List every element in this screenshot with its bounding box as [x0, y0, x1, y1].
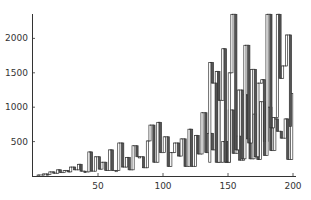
candle-increasing [231, 14, 233, 72]
candle-increasing [118, 143, 120, 171]
candle-increasing [276, 14, 278, 117]
candle-decreasing [80, 164, 82, 171]
candle-increasing [180, 139, 182, 156]
candle-decreasing [197, 135, 199, 154]
candle-increasing [174, 143, 176, 153]
candle-decreasing [136, 146, 138, 157]
x-tick-label: 150 [219, 181, 236, 191]
candle-increasing [284, 119, 286, 138]
candle-increasing [218, 100, 220, 162]
candle-decreasing [254, 69, 256, 156]
candle-decreasing [111, 150, 113, 171]
candle-increasing [222, 49, 224, 101]
y-tick-label: 1500 [5, 68, 28, 78]
candle-decreasing [224, 49, 226, 163]
candle-increasing [237, 90, 239, 150]
candle-decreasing [279, 14, 281, 78]
candle-increasing [157, 122, 159, 162]
candle-increasing [146, 141, 148, 168]
candle-increasing [101, 162, 103, 169]
candle-decreasing [211, 62, 213, 83]
candle-decreasing [184, 139, 186, 167]
candle-increasing [209, 62, 211, 162]
candle-decreasing [142, 157, 144, 168]
candle-increasing [132, 146, 134, 170]
y-tick-label: 2000 [5, 33, 28, 43]
candle-increasing [250, 69, 252, 143]
candle-decreasing [159, 122, 161, 152]
candle-increasing [222, 142, 224, 163]
candle-increasing [244, 45, 246, 159]
candle-decreasing [211, 133, 213, 150]
candle-increasing [272, 118, 274, 128]
candlestick-chart: 500100015002000 50100150200 [0, 0, 311, 200]
candle-decreasing [122, 143, 124, 167]
candle-decreasing [276, 119, 278, 131]
candle-increasing [188, 129, 190, 166]
candle-increasing [77, 164, 79, 170]
candle-increasing [282, 66, 284, 78]
candle-increasing [194, 135, 196, 166]
candle-increasing [126, 157, 128, 167]
candle-increasing [257, 83, 259, 157]
candle-decreasing [280, 131, 282, 138]
candle-increasing [163, 137, 165, 153]
candle-decreasing [90, 152, 92, 171]
candle-increasing [285, 35, 287, 66]
candle-increasing [170, 153, 172, 167]
candle-decreasing [289, 35, 291, 127]
candle-increasing [49, 172, 51, 175]
x-ticks-group: 50100150200 [92, 173, 302, 191]
candle-increasing [70, 167, 72, 172]
candle-increasing [94, 157, 96, 171]
x-tick-label: 100 [154, 181, 171, 191]
candle-increasing [109, 150, 111, 171]
candle-decreasing [235, 14, 237, 150]
candle-decreasing [205, 113, 207, 153]
candle-decreasing [98, 157, 100, 169]
candle-decreasing [59, 170, 61, 173]
x-tick-label: 200 [284, 181, 301, 191]
candle-increasing [266, 14, 268, 155]
x-tick-label: 50 [92, 181, 104, 191]
candle-increasing [201, 113, 203, 154]
candle-decreasing [241, 90, 243, 159]
candle-decreasing [191, 129, 193, 166]
candle-decreasing [248, 45, 250, 143]
candle-increasing [259, 102, 261, 160]
candle-increasing [57, 170, 59, 173]
y-tick-label: 500 [11, 137, 28, 147]
candle-decreasing [270, 14, 272, 128]
candle-decreasing [263, 80, 265, 156]
y-tick-label: 1000 [5, 102, 28, 112]
candle-decreasing [232, 110, 234, 153]
candle-decreasing [105, 162, 107, 170]
candle-decreasing [178, 143, 180, 156]
candle-increasing [149, 125, 151, 141]
y-ticks-group: 500100015002000 [5, 33, 35, 146]
candle-decreasing [167, 137, 169, 167]
candle-decreasing [153, 125, 155, 162]
candle-increasing [261, 80, 263, 83]
candles-group [37, 14, 293, 176]
candle-decreasing [287, 119, 289, 160]
candle-increasing [88, 152, 90, 172]
candle-decreasing [128, 157, 130, 169]
candle-increasing [228, 73, 230, 162]
candle-decreasing [74, 167, 76, 170]
candle-decreasing [215, 83, 217, 162]
